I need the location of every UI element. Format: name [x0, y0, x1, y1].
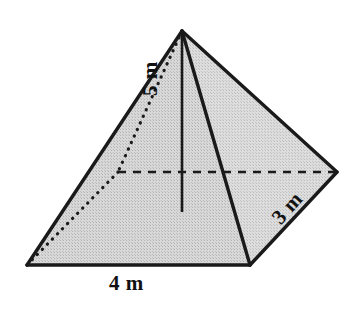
pyramid-figure: 5 m 3 m 4 m	[0, 0, 354, 318]
height-dimension-label: 5 m	[140, 61, 161, 96]
pyramid-drawing	[0, 0, 354, 318]
width-dimension-label: 4 m	[109, 273, 144, 294]
